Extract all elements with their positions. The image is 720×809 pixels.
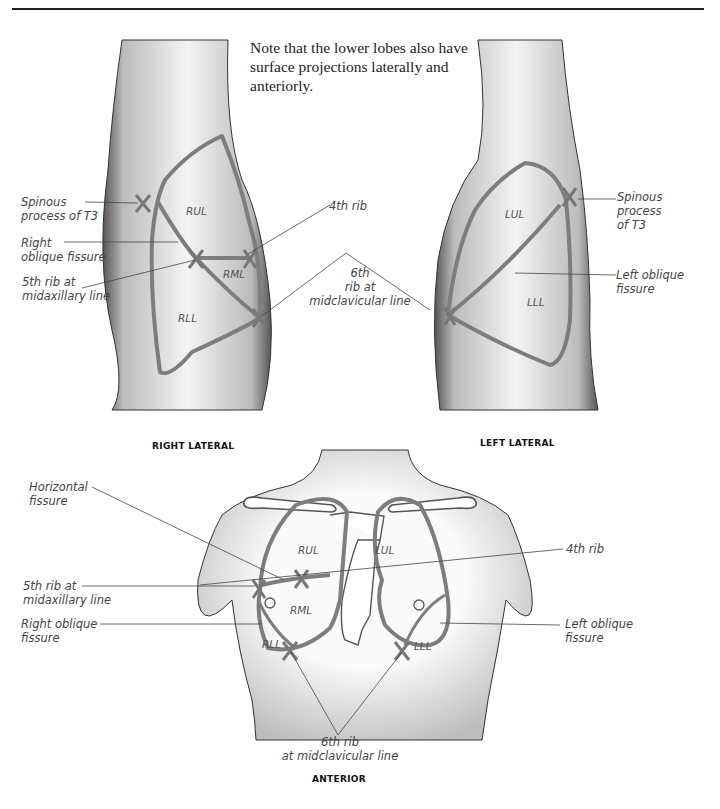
label-left-oblique-fissure-anterior: Left oblique fissure xyxy=(565,617,633,645)
label-6th-rib-midclavicular-lateral: 6th rib at midclavicular line xyxy=(300,266,420,308)
caption-right-lateral: RIGHT LATERAL xyxy=(152,441,234,451)
label-horizontal-fissure: Horizontal fissure xyxy=(29,480,88,508)
lung-projection-diagram xyxy=(0,0,720,809)
lobe-label-lll-lateral: LLL xyxy=(527,296,545,308)
lobe-label-rll-anterior: RLL xyxy=(262,638,281,650)
lobe-label-rul-lateral: RUL xyxy=(186,205,207,217)
label-5th-rib-midaxillary-lateral: 5th rib at midaxillary line xyxy=(22,275,110,303)
label-6th-rib-midclavicular-anterior: 6th rib at midclavicular line xyxy=(280,735,400,763)
label-right-oblique-fissure-anterior: Right oblique fissure xyxy=(21,617,97,645)
label-spinous-process-right: Spinous process of T3 xyxy=(21,195,98,223)
label-4th-rib-anterior: 4th rib xyxy=(566,542,604,556)
anterior-figure xyxy=(82,450,563,740)
caption-anterior: ANTERIOR xyxy=(312,774,366,784)
label-right-oblique-fissure-lateral: Right oblique fissure xyxy=(21,236,106,264)
label-left-oblique-fissure-lateral: Left oblique fissure xyxy=(616,268,684,296)
right-lateral-figure xyxy=(64,40,430,410)
lobe-label-lll-anterior: LLL xyxy=(414,640,432,652)
lobe-label-lul-lateral: LUL xyxy=(505,208,524,220)
lobe-label-rll-lateral: RLL xyxy=(178,312,197,324)
lobe-label-rul-anterior: RUL xyxy=(298,544,319,556)
lobe-label-rml-anterior: RML xyxy=(290,604,312,616)
caption-left-lateral: LEFT LATERAL xyxy=(480,438,555,448)
lobe-label-lul-anterior: LUL xyxy=(375,544,394,556)
label-4th-rib-lateral: 4th rib xyxy=(329,199,367,213)
lobe-label-rml-lateral: RML xyxy=(223,268,245,280)
left-lateral-figure xyxy=(434,40,616,410)
label-5th-rib-midaxillary-anterior: 5th rib at midaxillary line xyxy=(23,579,111,607)
label-spinous-process-left: Spinous process of T3 xyxy=(617,190,662,232)
